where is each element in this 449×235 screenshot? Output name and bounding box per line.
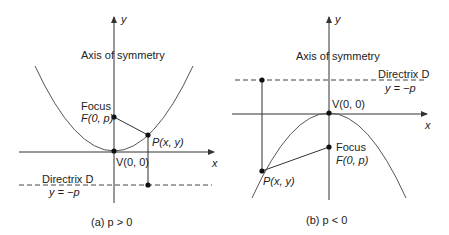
point-p: [145, 132, 150, 137]
directrix-equation: y = −p: [385, 82, 416, 94]
vertex-point: [326, 110, 331, 115]
focus-to-point-segment: [114, 117, 148, 135]
x-axis-label: x: [425, 119, 431, 131]
vertex-point: [111, 148, 116, 153]
directrix-label: Directrix D: [378, 68, 429, 80]
focus-label: Focus: [81, 100, 111, 112]
caption-a: (a) p > 0: [91, 216, 132, 228]
directrix-equation: y = −p: [49, 186, 80, 198]
directrix-label: Directrix D: [42, 173, 93, 185]
y-axis-label: y: [335, 13, 341, 25]
focus-label: Focus: [336, 141, 366, 153]
point-label: P(x, y): [263, 175, 295, 187]
vertex-label: V(0, 0): [116, 156, 149, 168]
axis-of-symmetry-label: Axis of symmetry: [296, 50, 380, 62]
x-axis-label: x: [212, 157, 218, 169]
panel-b: [232, 17, 427, 200]
directrix-foot-point: [145, 182, 150, 187]
focus-point: [326, 144, 331, 149]
axis-of-symmetry-label: Axis of symmetry: [81, 49, 165, 61]
directrix-foot-point: [259, 77, 264, 82]
point-label: P(x, y): [152, 136, 184, 148]
focus-point-label: F(0, p): [336, 154, 368, 166]
point-p: [259, 168, 264, 173]
diagram-canvas: [0, 0, 449, 235]
focus-point-label: F(0, p): [81, 112, 113, 124]
caption-b: (b) p < 0: [306, 214, 347, 226]
y-axis-label: y: [121, 13, 127, 25]
vertex-label: V(0, 0): [332, 98, 365, 110]
